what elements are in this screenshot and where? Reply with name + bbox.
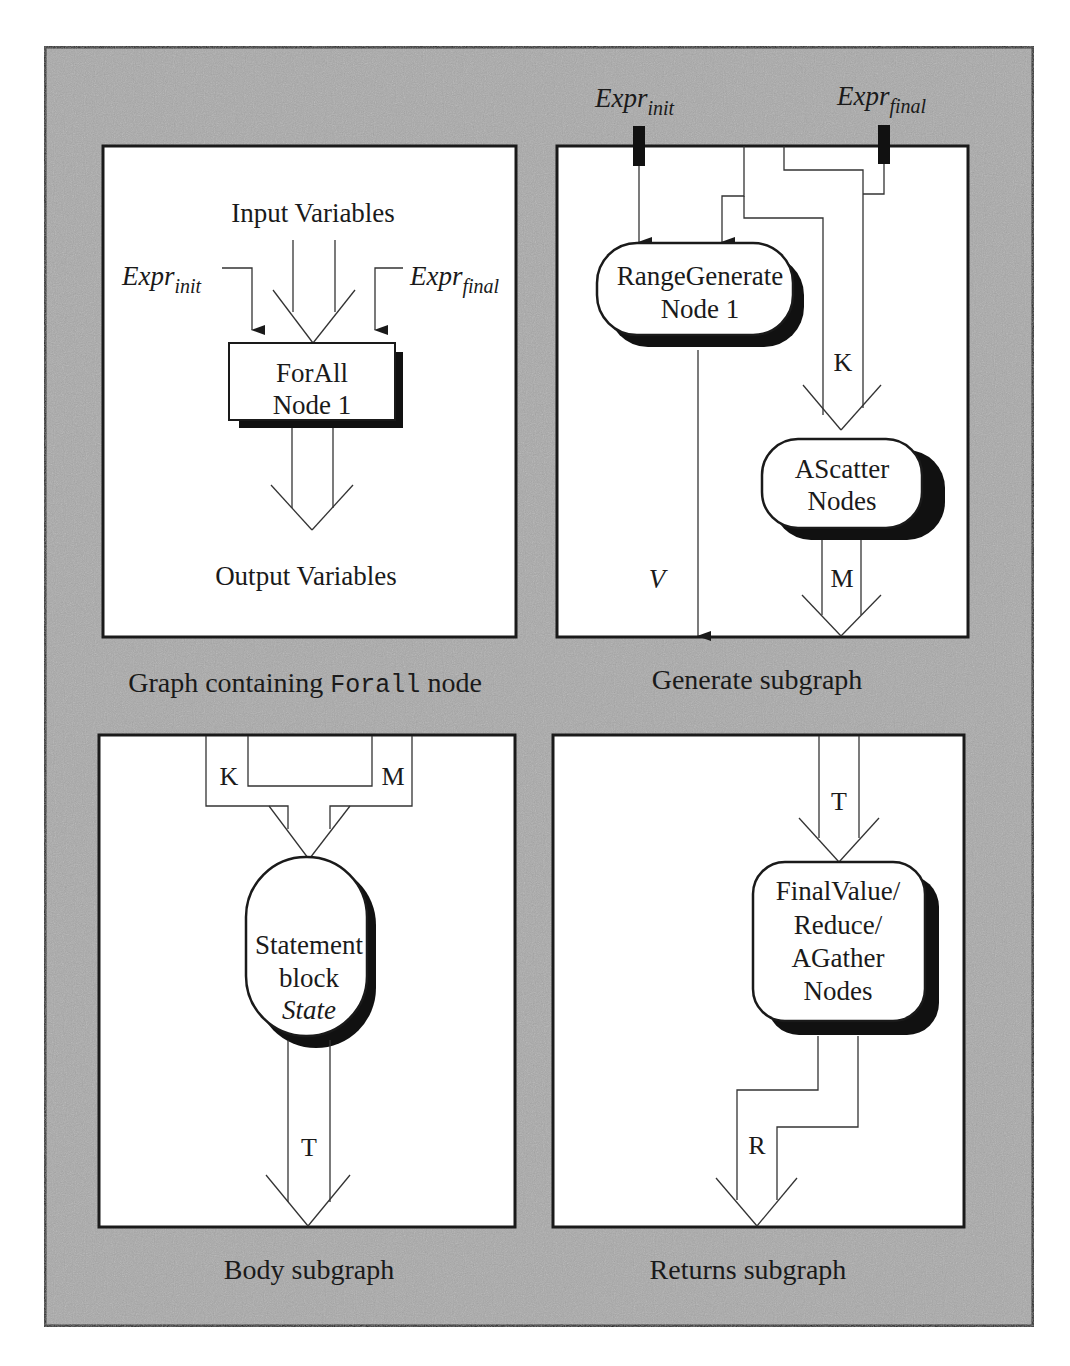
expr-init-port [633,126,645,166]
label-m: M [830,564,853,593]
svg-text:RangeGenerate: RangeGenerate [617,261,783,291]
ascatter-node: AScatter Nodes [762,439,945,540]
label-k: K [834,348,853,377]
panel-body-subgraph: K M Statement block State T [99,735,515,1227]
expr-final-port [878,125,890,164]
forall-node: ForAll Node 1 [229,343,403,428]
svg-text:ForAll: ForAll [276,358,348,388]
label-k: K [220,762,239,791]
svg-text:Statement: Statement [255,930,363,960]
forall-diagram: Input Variables Exprinit Exprfinal ForAl… [0,0,1070,1366]
svg-text:Node 1: Node 1 [273,390,352,420]
svg-text:Reduce/: Reduce/ [794,910,883,940]
svg-text:State: State [282,995,336,1025]
caption-body-subgraph: Body subgraph [224,1254,394,1285]
output-variables-label: Output Variables [215,561,397,591]
range-generate-node: RangeGenerate Node 1 [597,243,804,347]
caption-generate-subgraph: Generate subgraph [652,664,863,695]
final-value-reduce-gather-node: FinalValue/ Reduce/ AGather Nodes [753,862,939,1035]
panel-forall-graph: Input Variables Exprinit Exprfinal ForAl… [103,146,516,637]
svg-text:Node 1: Node 1 [661,294,740,324]
svg-text:AGather: AGather [792,943,885,973]
label-r: R [748,1131,766,1160]
panel-generate-subgraph: Exprinit Exprfinal RangeGenerate Node 1 … [557,81,968,637]
caption-forall-graph: Graph containing Forall node [128,667,482,700]
panel-returns-subgraph: T FinalValue/ Reduce/ AGather Nodes R [553,735,964,1227]
label-m: M [381,762,404,791]
caption-returns-subgraph: Returns subgraph [650,1254,847,1285]
label-t: T [301,1133,317,1162]
input-variables-label: Input Variables [231,198,395,228]
svg-text:AScatter: AScatter [795,454,889,484]
label-t: T [831,787,847,816]
svg-text:FinalValue/: FinalValue/ [776,876,901,906]
svg-text:Nodes: Nodes [808,486,877,516]
statement-block-node: Statement block State [246,857,376,1048]
svg-text:block: block [279,963,339,993]
svg-text:Nodes: Nodes [804,976,873,1006]
